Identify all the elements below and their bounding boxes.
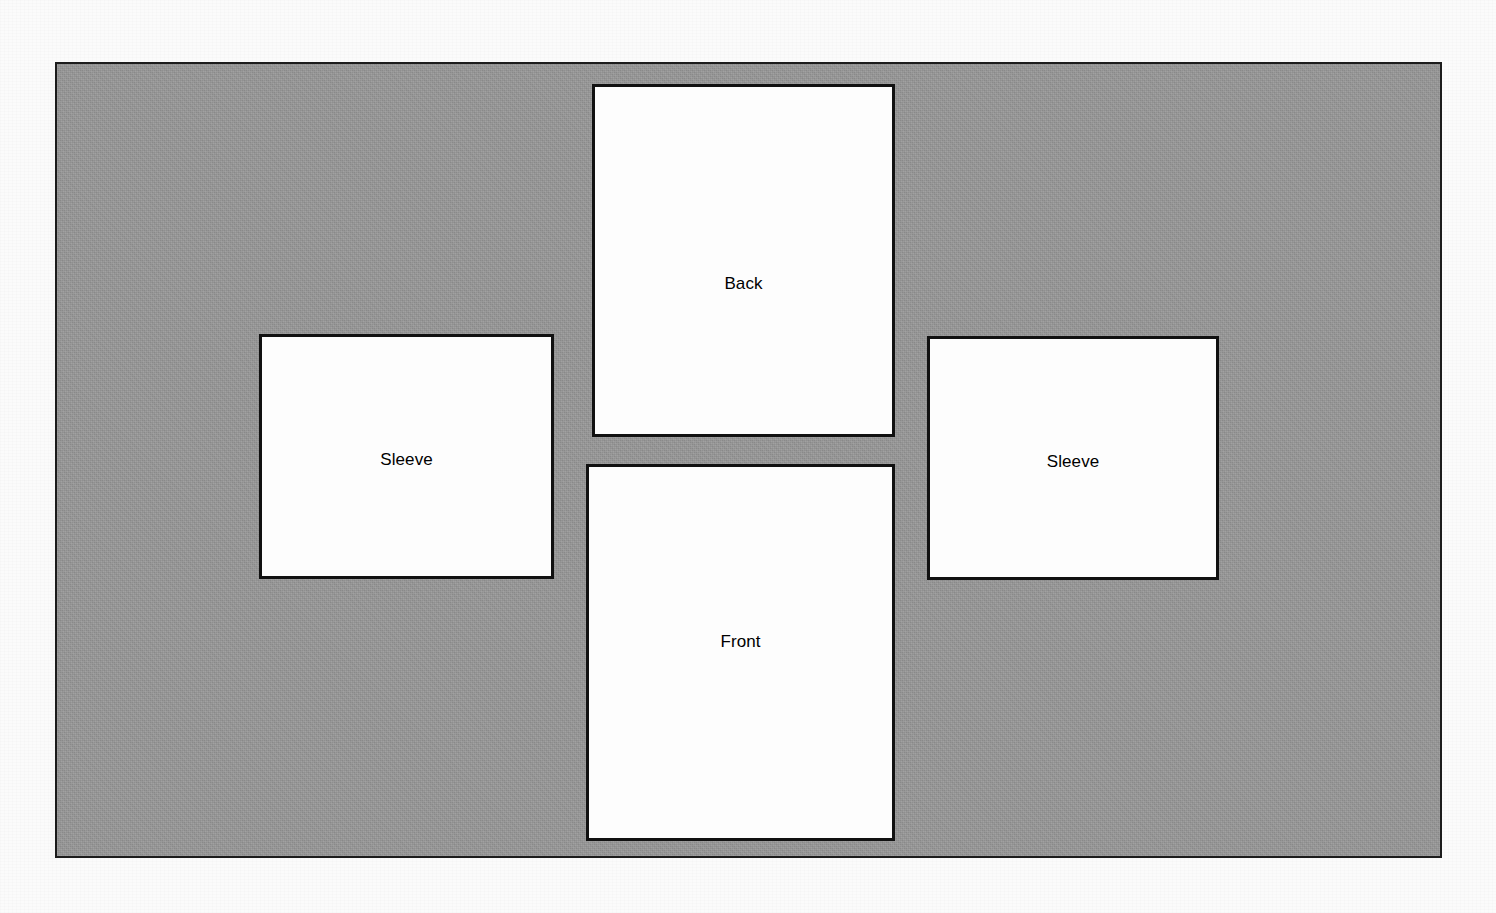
pattern-piece-sleeve-right-label: Sleeve [1047,453,1100,470]
pattern-piece-front-label: Front [720,633,760,650]
pattern-piece-sleeve-left[interactable]: Sleeve [259,334,554,579]
pattern-piece-sleeve-right[interactable]: Sleeve [927,336,1219,580]
pattern-piece-back[interactable]: Back [592,84,895,437]
pattern-piece-sleeve-left-label: Sleeve [380,451,433,468]
fabric-layout-sheet: Back Front Sleeve Sleeve [55,62,1442,858]
pattern-piece-back-label: Back [724,275,762,292]
pattern-piece-front[interactable]: Front [586,464,895,841]
